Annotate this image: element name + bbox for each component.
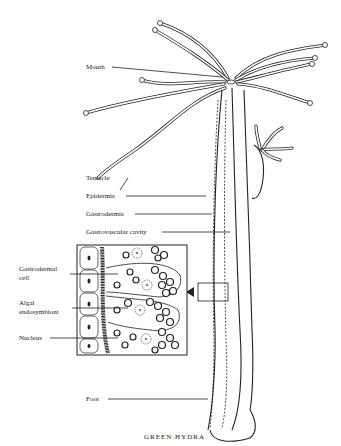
- tentacle-leader: [120, 178, 128, 190]
- mouth-shape: [227, 80, 235, 84]
- label-epidermis: Epidermis: [86, 192, 115, 200]
- tentacle-tip: [84, 111, 89, 116]
- mouth-leader: [112, 67, 222, 77]
- label-foot: Foot: [86, 395, 99, 403]
- hydra-body: [186, 80, 292, 441]
- label-gastrodermal-cell-2: cell: [19, 274, 29, 282]
- epidermis-cells: [210, 100, 227, 428]
- inset-cross-section: [77, 245, 187, 355]
- label-algal-endosymbiont-2: endosymbiont: [19, 308, 59, 316]
- label-algal-endosymbiont-1: Algal: [19, 299, 35, 307]
- tentacle-tip: [308, 101, 313, 106]
- label-gastrodermal-cell-1: Gastrodermal: [19, 265, 57, 273]
- label-mouth: Mouth: [86, 63, 105, 71]
- tentacles: [84, 21, 328, 179]
- tentacle-tip: [310, 62, 315, 67]
- tentacle-tip: [158, 21, 163, 26]
- tentacle-tip: [153, 28, 158, 33]
- label-gastrodermis: Gastrodermis: [86, 210, 124, 218]
- label-gastrovascular-cavity: Gastrovascular cavity: [86, 228, 147, 236]
- tentacle-tip: [313, 56, 318, 61]
- tentacle-tip: [323, 43, 328, 48]
- bud: [252, 145, 264, 198]
- green-hydra-diagram: Mouth Tentacle Epidermis Gastrodermis Ga…: [0, 0, 341, 446]
- label-nucleus: Nucleus: [19, 334, 42, 342]
- diagram-title: GREEN HYDRA: [144, 433, 205, 441]
- label-tentacle: Tentacle: [86, 174, 110, 182]
- tentacle-tip: [140, 78, 145, 83]
